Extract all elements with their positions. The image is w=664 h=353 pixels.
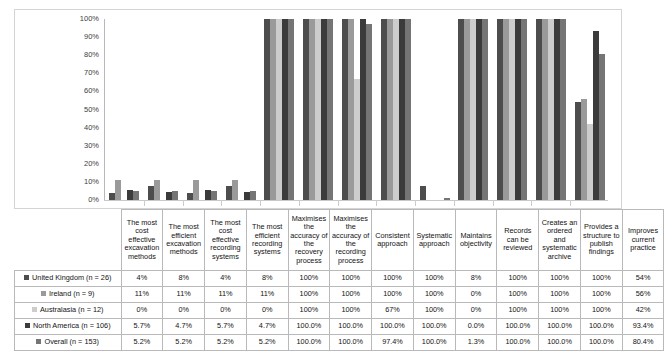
table-cell: 0% [455,303,497,319]
legend-row-label: United Kingdom (n = 26) [15,271,122,287]
bar-group [376,19,415,200]
y-axis-tick: 10% [84,178,99,186]
bar[interactable] [560,19,566,200]
table-cell: 100.0% [413,335,455,351]
table-cell: 100% [539,271,581,287]
legend-series-name: United Kingdom (n = 26) [32,273,111,282]
bar[interactable] [193,180,199,200]
bar-group [531,19,570,200]
y-axis-tick: 90% [84,33,99,41]
legend-swatch-icon [25,323,30,328]
axis-tick-mark [493,200,494,206]
table-column-header: Improves current practice [622,210,664,271]
table-cell: 97.4% [372,335,414,351]
bar-group [338,19,377,200]
axis-tick-mark [183,200,184,206]
table-cell: 100% [580,287,622,303]
table-cell: 1.3% [455,335,497,351]
y-axis-tick: 50% [84,106,99,114]
legend-swatch-icon [32,307,37,312]
bar[interactable] [366,24,372,200]
table-cell: 100.0% [497,335,539,351]
legend-row-label: North America (n = 106) [15,319,122,335]
legend-swatch-icon [36,339,41,344]
table-head: The most cost effective excavation metho… [15,210,664,271]
table-cell: 100% [288,287,330,303]
table-cell: 4.7% [163,319,205,335]
legend-swatch-icon [24,275,29,280]
axis-tick-mark [376,200,377,206]
bar-group [260,19,299,200]
table-cell: 11% [205,287,247,303]
bar-group [105,19,144,200]
table-column-header: Maintains objectivity [455,210,497,271]
table-cell: 100.0% [372,319,414,335]
y-axis-labels: 100%90%80%70%60%50%40%30%20%10%0% [15,15,103,205]
bar[interactable] [172,191,178,200]
table-cell: 8% [455,271,497,287]
bar[interactable] [288,19,294,200]
table-cell: 100.0% [539,335,581,351]
table-cell: 100% [413,271,455,287]
table-cell: 8% [246,271,288,287]
axis-tick-mark [221,200,222,206]
axis-tick-mark [144,200,145,206]
axis-tick-mark [531,200,532,206]
table-cell: 5.2% [205,335,247,351]
y-axis-tick: 70% [84,69,99,77]
bar[interactable] [482,19,488,200]
table-cell: 0% [163,303,205,319]
table-row: United Kingdom (n = 26)4%8%4%8%100%100%1… [15,271,664,287]
y-axis-tick: 30% [84,142,99,150]
table-cell: 0% [246,303,288,319]
bar[interactable] [211,191,217,200]
y-axis-tick: 100% [80,15,99,23]
axis-tick-mark [260,200,261,206]
bar[interactable] [444,198,450,200]
legend-series-name: Australasia (n = 12) [40,305,103,314]
bar[interactable] [154,180,160,200]
table-cell: 100% [372,287,414,303]
bar[interactable] [133,191,139,200]
table-cell: 100% [413,287,455,303]
bar[interactable] [327,19,333,200]
table-cell: 100% [497,271,539,287]
table-row: Overall (n = 153)5.2%5.2%5.2%5.2%100.0%1… [15,335,664,351]
bar[interactable] [115,180,121,200]
table-cell: 100.0% [330,319,372,335]
bar[interactable] [521,19,527,200]
table-cell: 100% [372,271,414,287]
bar-group [493,19,532,200]
table-cell: 80.4% [622,335,664,351]
table-cell: 100% [497,303,539,319]
table-cell: 100.0% [539,319,581,335]
bar[interactable] [232,180,238,200]
bar[interactable] [405,19,411,200]
table-cell: 5.7% [121,319,163,335]
table-column-header: Provides a structure to publish findings [580,210,622,271]
table-cell: 56% [622,287,664,303]
table-body: United Kingdom (n = 26)4%8%4%8%100%100%1… [15,271,664,351]
table-cell: 100% [580,303,622,319]
table-row: Australasia (n = 12)0%0%0%0%100%100%67%1… [15,303,664,319]
y-axis-tick: 40% [84,124,99,132]
data-table-wrapper: The most cost effective excavation metho… [14,209,622,351]
table-cell: 5.7% [205,319,247,335]
axis-tick-mark [454,200,455,206]
y-axis-tick: 60% [84,87,99,95]
bar-group [221,19,260,200]
y-axis-tick: 20% [84,160,99,168]
table-cell: 5.2% [121,335,163,351]
bar[interactable] [250,191,256,200]
table-cell: 0% [455,287,497,303]
bar-group [454,19,493,200]
axis-tick-mark [570,200,571,206]
bar[interactable] [420,186,426,200]
table-cell: 100.0% [580,335,622,351]
table-cell: 100% [288,303,330,319]
table-cell: 8% [163,271,205,287]
table-header-row: The most cost effective excavation metho… [15,210,664,271]
table-cell: 0.0% [455,319,497,335]
bar[interactable] [599,54,605,200]
